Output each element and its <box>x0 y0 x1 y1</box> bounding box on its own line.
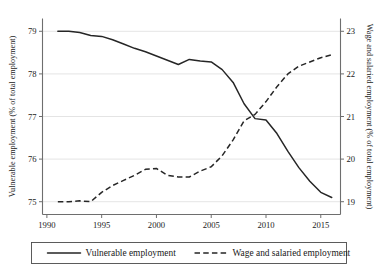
x-axis-tick-label: 1990 <box>38 220 55 230</box>
y-axis-right-tick-label: 23 <box>347 26 356 36</box>
x-axis-tick-label: 2005 <box>203 220 220 230</box>
x-axis-tick-label: 2000 <box>148 220 165 230</box>
line-chart: 7576777879 1920212223 199019952000200520… <box>0 0 381 268</box>
legend-label-1: Wage and salaried employment <box>233 248 351 258</box>
x-axis-tick-label: 2015 <box>312 220 329 230</box>
x-axis-tick-label: 1995 <box>93 220 110 230</box>
y-axis-right-tick-label: 19 <box>347 197 356 207</box>
y-axis-left-tick-label: 78 <box>28 69 37 79</box>
chart-container: 7576777879 1920212223 199019952000200520… <box>0 0 381 268</box>
y-axis-left-tick-label: 75 <box>28 197 37 207</box>
y-axis-left-tick-label: 77 <box>28 112 37 122</box>
y-axis-right-tick-label: 21 <box>347 112 356 122</box>
y-axis-left-title: Vulnerable employment (% of total employ… <box>8 35 17 197</box>
y-axis-right-title: Wage and salaried employment (% of total… <box>365 24 374 210</box>
y-axis-right-tick-label: 22 <box>347 69 356 79</box>
legend-label-0: Vulnerable employment <box>86 248 177 258</box>
y-axis-left-tick-label: 79 <box>28 26 37 36</box>
y-axis-right-tick-label: 20 <box>347 154 356 164</box>
x-axis-tick-label: 2010 <box>257 220 274 230</box>
chart-legend: Vulnerable employmentWage and salaried e… <box>32 243 351 264</box>
y-axis-left-tick-label: 76 <box>28 154 37 164</box>
